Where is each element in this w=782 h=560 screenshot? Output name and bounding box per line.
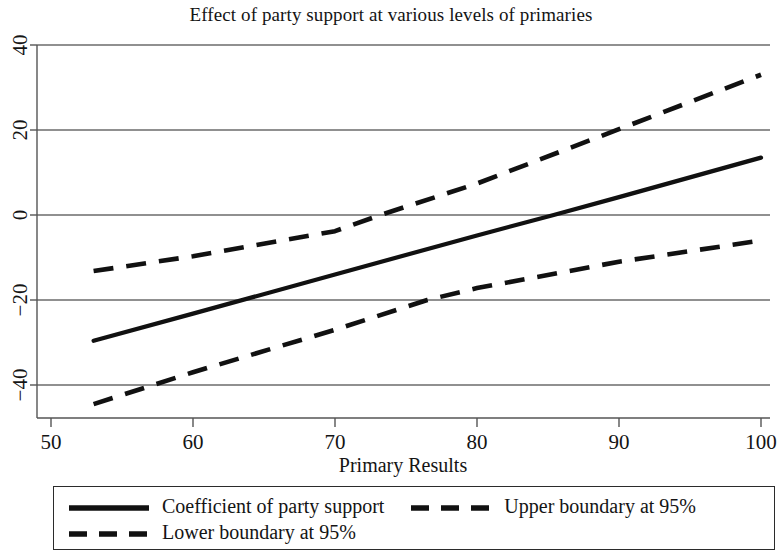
x-tick-group: 5060708090100 [41,418,777,454]
legend-rows: Coefficient of party supportUpper bounda… [54,487,774,549]
x-tick-label: 100 [745,430,777,454]
x-tick-label: 70 [325,430,346,454]
series-line [94,158,761,341]
legend-row: Coefficient of party supportUpper bounda… [68,493,774,519]
y-tick-label: 40 [8,35,32,56]
y-tick-group: 40200−20−40 [8,35,37,402]
y-tick-label: 0 [8,210,32,221]
y-tick-label: 20 [8,120,32,141]
legend-label: Upper boundary at 95% [504,495,696,518]
legend-row: Lower boundary at 95% [68,519,774,545]
axis-lines-group [37,45,770,418]
x-tick-label: 80 [467,430,488,454]
legend-label: Lower boundary at 95% [162,521,356,544]
legend-label: Coefficient of party support [162,495,384,518]
legend: Coefficient of party supportUpper bounda… [53,486,775,550]
y-tick-label: −40 [8,369,32,402]
x-tick-label: 90 [609,430,630,454]
x-axis-title: Primary Results [339,454,468,477]
data-series-group [94,75,761,404]
chart-figure: Effect of party support at various level… [0,0,782,560]
series-line [94,241,761,405]
x-tick-label: 50 [41,430,62,454]
y-tick-label: −20 [8,284,32,317]
dashed-line-icon [410,500,492,512]
legend-item[interactable]: Upper boundary at 95% [410,495,696,518]
legend-item[interactable]: Lower boundary at 95% [68,521,356,544]
solid-line-icon [68,500,150,512]
legend-item[interactable]: Coefficient of party support [68,495,384,518]
series-line [94,75,761,271]
x-tick-label: 60 [183,430,204,454]
dashed-line-icon [68,526,150,538]
plot-canvas: 40200−20−40 5060708090100 Primary Result… [0,0,782,480]
gridlines-group [37,45,770,385]
